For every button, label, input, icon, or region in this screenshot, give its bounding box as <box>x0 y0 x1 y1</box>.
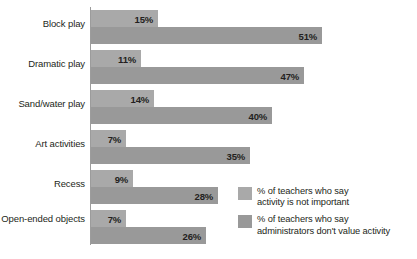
legend-label-line1: % of teachers who say <box>257 186 417 197</box>
bar-group: Dramatic play 11% 47% <box>0 49 417 89</box>
bar-series0: 11% <box>91 50 141 67</box>
legend-swatch-not-valued-icon <box>238 215 252 228</box>
bar-series1: 51% <box>91 27 322 44</box>
bar-series0: 15% <box>91 10 158 27</box>
legend-label-line2: administrators don't value activity <box>257 226 417 237</box>
bar-series1: 47% <box>91 67 304 84</box>
bar-value-label: 51% <box>299 30 317 41</box>
legend-swatch-not-important-icon <box>238 187 252 200</box>
chart-legend: % of teachers who say activity is not im… <box>238 186 417 243</box>
category-label: Art activities <box>0 138 85 149</box>
bar-value-label: 26% <box>183 230 201 241</box>
bar-series1: 35% <box>91 147 250 164</box>
category-label: Recess <box>0 178 85 189</box>
bar-value-label: 14% <box>131 93 149 104</box>
bar-value-label: 9% <box>115 173 128 184</box>
bar-series1: 26% <box>91 227 206 244</box>
bar-series1: 40% <box>91 107 272 124</box>
bar-value-label: 47% <box>281 70 299 81</box>
legend-item-not-important: % of teachers who say activity is not im… <box>238 186 417 208</box>
bar-group: Sand/water play 14% 40% <box>0 89 417 129</box>
legend-label-line2: activity is not important <box>257 197 417 208</box>
horizontal-bar-chart: Block play 15% 51% Dramatic play 11% 47%… <box>0 0 417 259</box>
category-label: Open-ended objects <box>0 213 85 224</box>
legend-label-line1: % of teachers who say <box>257 214 417 225</box>
bar-group: Art activities 7% 35% <box>0 129 417 169</box>
bar-value-label: 35% <box>227 150 245 161</box>
bar-group: Block play 15% 51% <box>0 9 417 49</box>
bar-value-label: 40% <box>249 110 267 121</box>
category-label: Dramatic play <box>0 58 85 69</box>
bar-value-label: 15% <box>135 13 153 24</box>
bar-series0: 14% <box>91 90 154 107</box>
bar-value-label: 7% <box>108 213 121 224</box>
bar-series0: 7% <box>91 130 126 147</box>
bar-value-label: 28% <box>195 190 213 201</box>
bar-value-label: 11% <box>118 53 136 64</box>
category-label: Block play <box>0 18 85 29</box>
bar-series0: 7% <box>91 210 126 227</box>
bar-value-label: 7% <box>108 133 121 144</box>
bar-series1: 28% <box>91 187 218 204</box>
category-label: Sand/water play <box>0 98 85 109</box>
bar-series0: 9% <box>91 170 133 187</box>
legend-item-not-valued: % of teachers who say administrators don… <box>238 214 417 236</box>
